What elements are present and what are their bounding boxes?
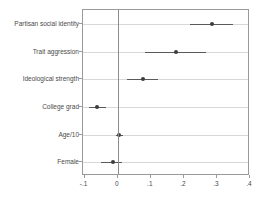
y-axis-tick <box>79 78 82 79</box>
zero-reference-line <box>118 10 119 174</box>
y-axis-label-college-grad: College grad <box>42 102 82 109</box>
gridline <box>83 79 248 80</box>
y-axis-tick <box>79 161 82 162</box>
y-axis-label-partisan-social-identity: Partisan social identity <box>14 19 82 26</box>
gridline <box>83 135 248 136</box>
point-estimate-marker <box>111 160 115 164</box>
x-axis-tick <box>183 175 184 178</box>
x-axis-tick-label: .2 <box>180 180 185 188</box>
x-axis-tick <box>249 175 250 178</box>
y-axis-tick <box>79 134 82 135</box>
y-axis-label-group: Partisan social identityTrait aggression… <box>0 9 82 175</box>
x-axis-tick-label: .1 <box>147 180 152 188</box>
y-axis-label-ideological-strength: Ideological strength <box>23 75 82 82</box>
y-axis-tick <box>79 23 82 24</box>
point-estimate-marker <box>174 50 178 54</box>
gridline <box>83 107 248 108</box>
x-axis-tick <box>117 175 118 178</box>
y-axis-label-trait-aggression: Trait aggression <box>33 47 82 54</box>
x-axis-tick-label: .3 <box>213 180 218 188</box>
point-estimate-marker <box>95 105 99 109</box>
x-axis-tick-label: -.1 <box>80 180 88 188</box>
point-estimate-marker <box>141 77 145 81</box>
coefficient-plot-figure: Partisan social identityTrait aggression… <box>0 0 267 204</box>
x-axis-tick-label: .4 <box>246 180 251 188</box>
x-axis-tick <box>216 175 217 178</box>
point-estimate-marker <box>210 22 214 26</box>
x-axis-tick <box>84 175 85 178</box>
y-axis-tick <box>79 51 82 52</box>
x-axis-tick <box>150 175 151 178</box>
x-axis-tick-label: 0 <box>115 180 119 188</box>
plot-area <box>82 9 249 175</box>
y-axis-tick <box>79 106 82 107</box>
